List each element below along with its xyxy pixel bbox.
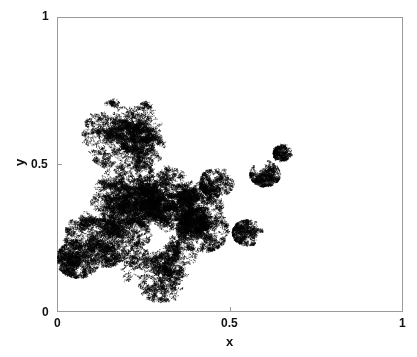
x-axis-label: x — [226, 334, 233, 349]
x-tick-1: 1 — [399, 316, 406, 330]
x-tick-mark-half — [230, 307, 231, 312]
x-tick-half: 0.5 — [221, 316, 238, 330]
y-axis-label: y — [12, 159, 27, 166]
random-walk-scatter — [57, 17, 403, 312]
y-tick-0: 0 — [42, 305, 49, 319]
y-tick-1: 1 — [42, 9, 49, 23]
y-tick-mark-half — [57, 164, 62, 165]
x-tick-0: 0 — [54, 316, 61, 330]
y-tick-half: 0.5 — [31, 157, 48, 171]
